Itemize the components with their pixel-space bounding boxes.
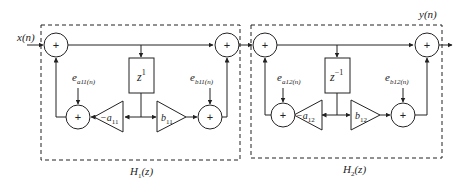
error-a11-label: ea11(n) — [72, 71, 96, 86]
feedback-path-1 — [56, 58, 66, 117]
stage-2-label: H2(z) — [342, 163, 366, 178]
plus-icon: + — [207, 111, 213, 123]
feedforward-path-1 — [222, 58, 227, 117]
plus-icon: + — [280, 109, 286, 121]
stage-1-label: H1(z) — [129, 165, 153, 180]
cascade-filter-diagram: x(n) + + z1 −a11 + ea11(n) b — [0, 0, 464, 187]
plus-icon: + — [75, 111, 81, 123]
error-a12-label: ea12(n) — [277, 71, 301, 86]
output-label: y(n) — [418, 8, 437, 21]
input-label: x(n) — [16, 31, 35, 44]
error-b12-label: eb12(n) — [385, 71, 409, 86]
error-b11-label: eb11(n) — [190, 71, 214, 86]
plus-icon: + — [400, 109, 406, 121]
feedforward-path-2 — [415, 58, 427, 115]
stage-2: + + z−1 −a12 + ea12(n) b12 + eb12(n) H2(… — [251, 25, 442, 178]
plus-icon: + — [424, 39, 430, 51]
feedback-path-2 — [265, 58, 271, 115]
plus-icon: + — [53, 39, 59, 51]
stage-1: + + z1 −a11 + ea11(n) b11 + — [41, 25, 240, 180]
plus-icon: + — [262, 39, 268, 51]
plus-icon: + — [224, 39, 230, 51]
